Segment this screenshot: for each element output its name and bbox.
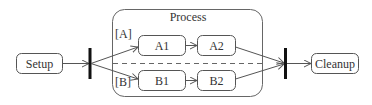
guard-a: [A] [115,27,132,41]
node-a2: A2 [198,36,236,56]
svg-text:A2: A2 [209,39,224,53]
node-setup: Setup [17,54,63,74]
process-title: Process [170,10,207,24]
svg-text:B1: B1 [155,74,169,88]
edge-fork-a1 [91,47,138,64]
process-frame: Process [A] [B] [113,10,263,97]
guard-b: [B] [115,75,131,89]
join-bar [284,48,287,79]
svg-text:A1: A1 [155,39,170,53]
activity-diagram: Process [A] [B] Setup A1 A2 B1 B2 [0,0,372,105]
node-b2: B2 [198,71,236,91]
node-cleanup: Cleanup [312,54,359,74]
edge-a2-join [236,47,285,63]
node-a1: A1 [139,36,186,56]
svg-text:B2: B2 [209,74,223,88]
node-b1: B1 [139,71,186,91]
edge-b2-join [236,64,285,79]
svg-text:Cleanup: Cleanup [315,57,355,71]
svg-text:Setup: Setup [26,57,53,71]
